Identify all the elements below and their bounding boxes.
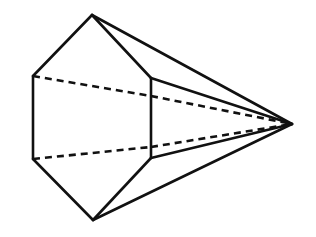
geometric-figure: Hexagonal pyramid line drawing [0, 0, 316, 237]
